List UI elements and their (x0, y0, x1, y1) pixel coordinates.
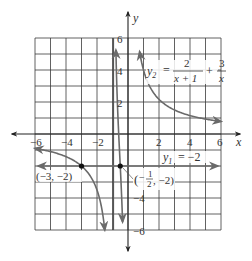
y2-equation-label: y2 = 2 x + 1 + 3 x (146, 57, 226, 84)
x-tick-label: −4 (61, 136, 73, 148)
y-tick-label: 2 (117, 97, 123, 109)
function-graph: y x −6 −4 −2 2 4 6 6 4 2 −4 −6 y2 = 2 x … (0, 0, 252, 261)
point-label-open-paren: ( (134, 172, 138, 187)
y2-numerator-1: 2 (184, 57, 190, 69)
x-axis-label: x (235, 135, 242, 149)
y1-subscript: 1 (168, 157, 172, 166)
y2-numerator-2: 3 (219, 57, 225, 69)
y2-subscript: 2 (152, 71, 156, 80)
point-label-denominator: 2 (147, 179, 152, 189)
y-tick-label: 6 (117, 33, 123, 45)
point-label-middle: ( − 1 2 , −2) (123, 168, 175, 190)
intersection-point (79, 163, 84, 168)
point-label-sign: − (139, 172, 145, 183)
y1-rhs: = −2 (178, 150, 201, 164)
x-tick-labels: −6 −4 −2 2 4 6 (30, 136, 223, 148)
x-tick-label: −6 (30, 136, 42, 148)
point-label-neg3-neg2: (−3, −2) (36, 170, 73, 183)
x-tick-label: 4 (187, 136, 193, 148)
point-label-numerator: 1 (148, 169, 153, 179)
x-tick-label: 6 (217, 136, 223, 148)
point-label-left: (−3, −2) (36, 170, 82, 183)
y1-equation-label: y1 = −2 (162, 150, 208, 166)
y2-denominator-1: x + 1 (173, 72, 197, 84)
point-label-rest: , −2) (153, 174, 174, 187)
y2-plus: + (206, 64, 213, 78)
y2-equals: = (163, 63, 170, 77)
y-tick-label: −4 (133, 192, 145, 204)
y2-branch-1 (35, 148, 105, 230)
intersection-point (118, 163, 123, 168)
x-tick-label: 2 (156, 136, 162, 148)
y2-denominator-2: x (218, 72, 224, 84)
y-axis-label: y (132, 11, 139, 25)
x-tick-label: −2 (92, 136, 104, 148)
y-tick-label: 4 (117, 65, 123, 77)
y-tick-label: −6 (133, 225, 145, 237)
